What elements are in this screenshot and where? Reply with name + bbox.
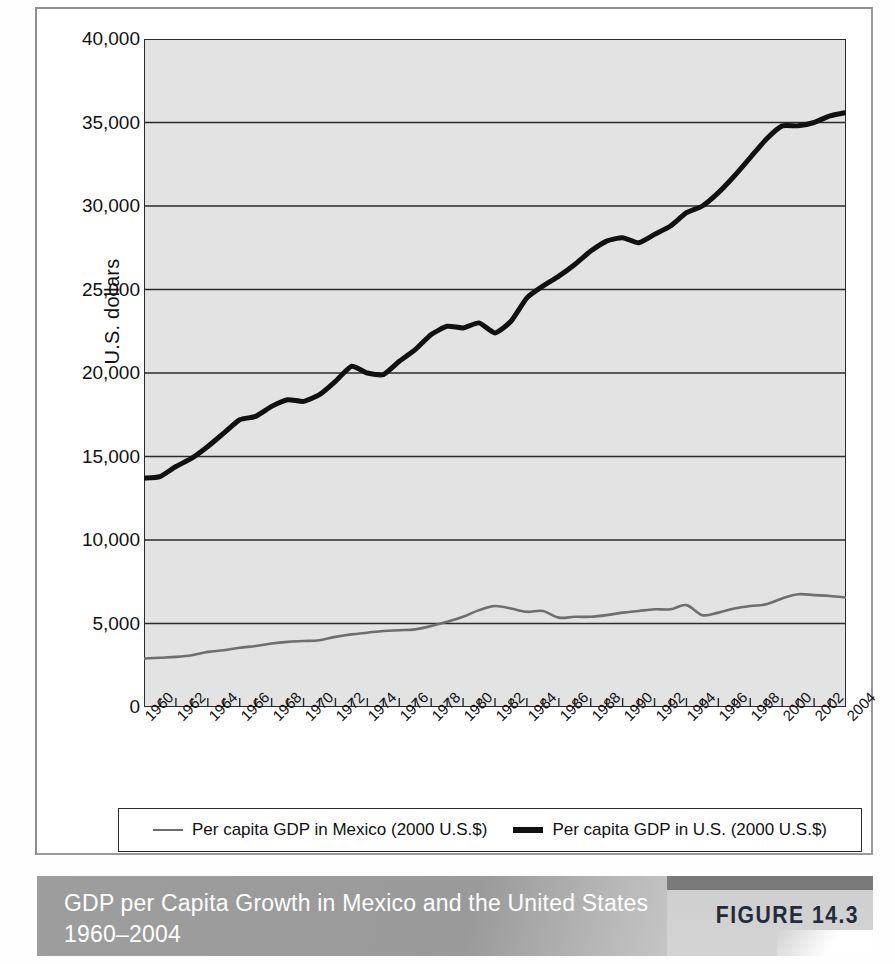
badge-shadow-decoration — [777, 930, 873, 956]
figure-caption-text: GDP per Capita Growth in Mexico and the … — [64, 888, 664, 950]
chart-figure: U.S. dollars 05,00010,00015,00020,00025,… — [0, 0, 895, 964]
x-axis-tick-labels: 1960196219641966196819701972197419761978… — [144, 712, 846, 792]
line-series-mexico — [144, 594, 846, 658]
figure-caption-banner: GDP per Capita Growth in Mexico and the … — [37, 876, 873, 956]
legend-swatch-us-icon — [513, 827, 543, 833]
y-tick-label: 35,000 — [48, 112, 140, 134]
chart-lines — [144, 39, 846, 707]
plot-area — [144, 39, 846, 707]
line-series-us — [144, 112, 846, 478]
chart-legend: Per capita GDP in Mexico (2000 U.S.$) Pe… — [118, 808, 862, 852]
y-tick-label: 25,000 — [48, 279, 140, 301]
y-tick-label: 40,000 — [48, 28, 140, 50]
y-tick-label: 10,000 — [48, 529, 140, 551]
x-tick-label: 2004 — [843, 688, 879, 724]
legend-swatch-mexico-icon — [153, 829, 183, 832]
y-tick-label: 30,000 — [48, 195, 140, 217]
y-tick-label: 20,000 — [48, 362, 140, 384]
legend-label-us: Per capita GDP in U.S. (2000 U.S.$) — [552, 820, 827, 840]
legend-item-us: Per capita GDP in U.S. (2000 U.S.$) — [513, 820, 827, 840]
y-tick-label: 0 — [48, 696, 140, 718]
y-tick-label: 5,000 — [48, 613, 140, 635]
legend-item-mexico: Per capita GDP in Mexico (2000 U.S.$) — [153, 820, 487, 840]
figure-number-badge: FIGURE 14.3 — [667, 876, 873, 956]
gridlines — [144, 123, 846, 624]
legend-label-mexico: Per capita GDP in Mexico (2000 U.S.$) — [192, 820, 487, 840]
figure-page: U.S. dollars 05,00010,00015,00020,00025,… — [0, 0, 895, 964]
figure-number-label: FIGURE 14.3 — [682, 902, 859, 929]
y-tick-label: 15,000 — [48, 446, 140, 468]
